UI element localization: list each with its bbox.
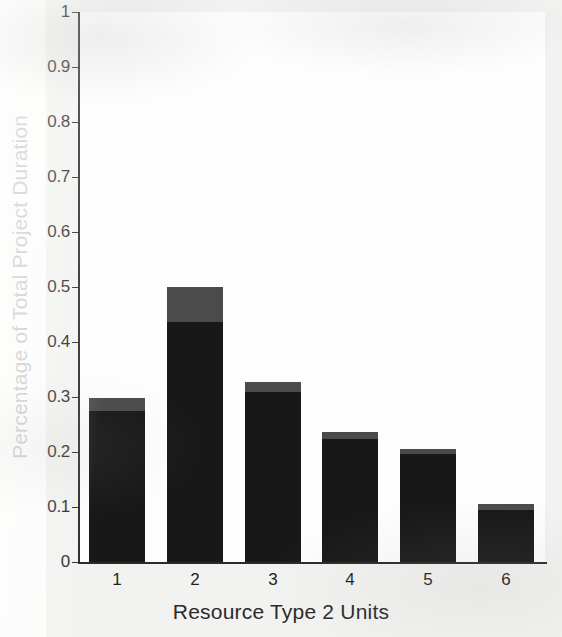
y-tick-label: 0 — [12, 552, 70, 572]
x-tick-label: 3 — [248, 570, 298, 590]
y-tick-label: 0.1 — [12, 497, 70, 517]
y-tick-mark — [72, 342, 78, 343]
y-tick-mark — [72, 122, 78, 123]
x-tick-label: 5 — [403, 570, 453, 590]
y-axis-title: Percentage of Total Project Duration — [8, 115, 32, 459]
x-axis-line — [78, 562, 547, 564]
bar-segment-upper — [89, 398, 145, 411]
y-tick-label: 0.9 — [12, 57, 70, 77]
y-tick-mark — [72, 177, 78, 178]
bar-segment-upper — [322, 432, 378, 439]
bar-segment-lower — [245, 392, 301, 562]
y-tick-mark — [72, 232, 78, 233]
y-tick-mark — [72, 507, 78, 508]
bar-segment-lower — [400, 454, 456, 562]
x-tick-label: 6 — [481, 570, 531, 590]
bar-1 — [89, 398, 145, 562]
plot-background — [78, 12, 545, 562]
x-tick-label: 1 — [92, 570, 142, 590]
y-axis-line — [78, 12, 80, 563]
bar-3 — [245, 382, 301, 562]
bar-segment-upper — [245, 382, 301, 392]
bar-5 — [400, 449, 456, 562]
y-tick-mark — [72, 452, 78, 453]
y-tick-mark — [72, 12, 78, 13]
y-tick-mark — [72, 67, 78, 68]
y-tick-mark — [72, 397, 78, 398]
bar-segment-lower — [89, 411, 145, 562]
y-tick-mark — [72, 287, 78, 288]
x-tick-label: 2 — [170, 570, 220, 590]
bar-segment-upper — [167, 287, 223, 322]
bar-segment-lower — [478, 510, 534, 562]
bar-4 — [322, 432, 378, 562]
bar-segment-lower — [167, 322, 223, 562]
bar-6 — [478, 504, 534, 562]
x-tick-label: 4 — [325, 570, 375, 590]
x-axis-title: Resource Type 2 Units — [0, 600, 562, 624]
chart-page: 00.10.20.30.40.50.60.70.80.91 123456 Per… — [0, 0, 562, 637]
bar-segment-lower — [322, 439, 378, 562]
y-tick-label: 1 — [12, 2, 70, 22]
bar-2 — [167, 287, 223, 562]
y-tick-mark — [72, 562, 78, 563]
